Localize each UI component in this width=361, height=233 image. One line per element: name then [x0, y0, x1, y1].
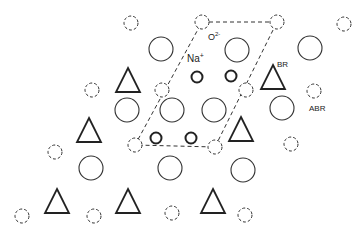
- oxygen-ion-icon: [208, 140, 222, 154]
- oxygen-ion-icon: [195, 15, 209, 29]
- br-site-triangle-icon: [116, 189, 140, 213]
- oxygen-ion-icon: [124, 16, 138, 30]
- oxygen-ion-icon: [155, 83, 169, 97]
- oxygen-ion-icon: [87, 209, 101, 223]
- oxygen-ion-icon: [48, 145, 62, 159]
- lattice-site-icon: [79, 156, 103, 180]
- lattice-site-icon: [202, 98, 226, 122]
- oxygen-label: O2-: [208, 31, 220, 42]
- lattice-site-icon: [149, 37, 173, 61]
- lattice-site-icon: [231, 158, 255, 182]
- oxygen-ion-icon: [337, 17, 351, 31]
- oxygen-ion-icon: [85, 83, 99, 97]
- oxygen-ion-icon: [239, 83, 253, 97]
- lattice-site-icon: [270, 96, 294, 120]
- br-site-triangle-icon: [45, 189, 69, 213]
- oxygen-ion-icon: [270, 15, 284, 29]
- abr-label: ABR: [309, 104, 326, 113]
- unit-cell-outline: [135, 22, 277, 147]
- br-site-triangle-icon: [229, 117, 253, 141]
- diagram-canvas: O2- Na+ BR ABR: [0, 0, 361, 233]
- sodium-ion-sites: [151, 71, 237, 144]
- oxygen-ion-sites: [15, 15, 351, 223]
- br-site-triangle-icon: [116, 68, 140, 92]
- unit-cell-parallelogram: [135, 22, 277, 147]
- oxygen-ion-icon: [238, 208, 252, 222]
- oxygen-ion-icon: [15, 209, 29, 223]
- sodium-ion-icon: [186, 133, 197, 144]
- oxygen-ion-icon: [307, 84, 321, 98]
- lattice-diagram: O2- Na+ BR ABR: [0, 0, 361, 233]
- oxygen-ion-icon: [284, 137, 298, 151]
- lattice-site-icon: [225, 38, 249, 62]
- br-site-triangle-icon: [77, 118, 101, 142]
- sodium-ion-icon: [226, 71, 237, 82]
- oxygen-ion-icon: [128, 138, 142, 152]
- lattice-site-icon: [160, 98, 184, 122]
- oxygen-ion-icon: [165, 206, 179, 220]
- br-site-triangle-icon: [201, 189, 225, 213]
- sodium-ion-icon: [151, 133, 162, 144]
- lattice-site-icon: [158, 156, 182, 180]
- sodium-label: Na+: [187, 52, 204, 64]
- lattice-site-icon: [115, 98, 139, 122]
- lattice-site-icon: [298, 36, 322, 60]
- br-label: BR: [277, 60, 288, 69]
- sodium-ion-icon: [192, 72, 203, 83]
